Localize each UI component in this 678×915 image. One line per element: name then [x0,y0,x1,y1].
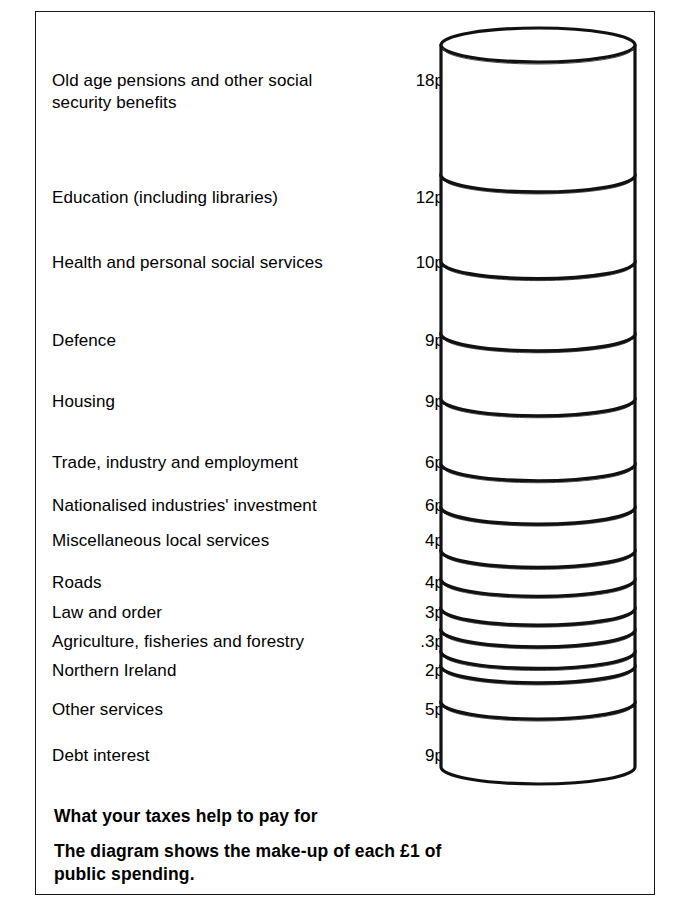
pence-value: 6p [384,495,444,517]
category-label: Agriculture, fisheries and forestry [52,631,304,653]
pence-value: .3p [384,631,444,653]
pence-value: 10p [384,252,444,274]
pence-value: 9p [384,330,444,352]
pence-value: 5p [384,699,444,721]
segment-top-ellipse [441,28,635,62]
cylinder-segment [441,28,635,192]
caption-subtext: The diagram shows the make-up of each £1… [54,840,484,886]
pence-value: 9p [384,745,444,767]
cylinder-stack-svg [438,26,638,788]
category-label: Defence [52,330,116,352]
category-label: Miscellaneous local services [52,530,269,552]
pence-value: 6p [384,452,444,474]
category-label: Law and order [52,602,162,624]
category-label: Housing [52,391,115,413]
category-label: Nationalised industries' investment [52,495,317,517]
category-label: Trade, industry and employment [52,452,298,474]
category-label: Health and personal social services [52,252,323,274]
category-label: Old age pensions and other social securi… [52,70,312,114]
pence-value: 2p [384,660,444,682]
category-label: Debt interest [52,745,150,767]
pence-value: 4p [384,572,444,594]
caption-heading: What your taxes help to pay for [54,805,318,828]
category-label: Northern Ireland [52,660,176,682]
category-label: Education (including libraries) [52,187,278,209]
pence-value: 3p [384,602,444,624]
category-label: Roads [52,572,102,594]
pence-value: 12p [384,187,444,209]
pence-value: 9p [384,391,444,413]
stacked-cylinder-chart [438,26,638,788]
segment-body [441,45,635,192]
category-label: Other services [52,699,163,721]
pence-value: 18p [384,70,444,92]
pence-value: 4p [384,530,444,552]
